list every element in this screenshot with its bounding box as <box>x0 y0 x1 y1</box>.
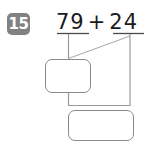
right-addend-diagonal-line <box>69 36 131 59</box>
math-problem-card: 15 79+24 <box>0 0 148 146</box>
answer-box-total-sum[interactable] <box>68 110 134 141</box>
answer-box-partial-sum[interactable] <box>45 59 91 93</box>
